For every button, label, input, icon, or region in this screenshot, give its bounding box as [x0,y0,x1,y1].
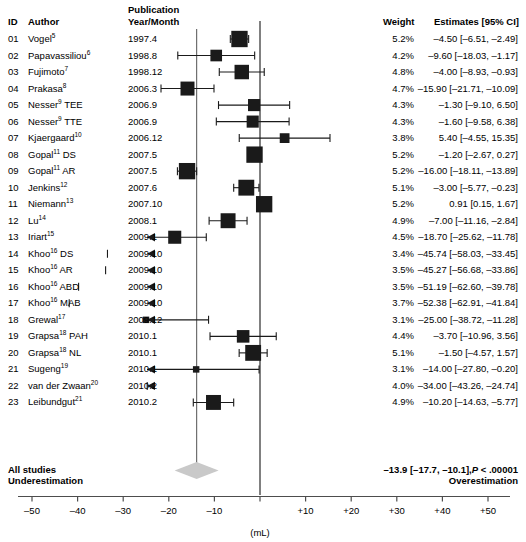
forest-row-19 [210,330,276,343]
row-year: 2009.10 [128,281,162,292]
row-estimate: –18.70 [–25.62, –11.78] [340,231,518,242]
row-id: 15 [8,264,19,275]
row-year: 2007.5 [128,149,157,160]
row-id: 05 [8,99,19,110]
row-author: Grewal17 [28,314,65,325]
effect-marker [221,213,236,228]
row-estimate: –3.00 [–5.77, –0.23] [340,182,518,193]
effect-marker [235,65,249,79]
row-estimate: –25.00 [–38.72, –11.28] [340,314,518,325]
forest-row-06 [216,116,289,128]
row-id: 06 [8,116,19,127]
row-year: 2009.12 [128,314,162,325]
row-id: 01 [8,33,19,44]
axis-tick-label: –40 [53,505,103,516]
row-estimate: –7.00 [–11.16, –2.84] [340,215,518,226]
row-estimate: –34.00 [–43.26, –24.74] [340,380,518,391]
header-weight: Weight [383,16,415,27]
row-author: Niemann13 [28,198,73,209]
row-estimate: –16.00 [–18.11, –13.89] [340,165,518,176]
effect-marker [181,82,195,96]
row-estimate: 0.91 [0.15, 1.67] [340,198,518,209]
row-author: Grapsa18 PAH [28,330,88,341]
row-author: Papavassiliou6 [28,50,90,61]
row-year: 2009.10 [128,297,162,308]
effect-marker [179,163,195,179]
row-id: 08 [8,149,19,160]
row-author: Nesser9 TTE [28,116,82,127]
axis-unit-label: (mL) [235,527,285,538]
row-estimate: –45.74 [–58.03, –33.45] [340,248,518,259]
row-author: Prakasa8 [28,83,66,94]
row-author: Kjaergaard10 [28,132,82,143]
row-year: 2010.1 [128,363,157,374]
summary-label-line2: Underestimation [8,475,83,487]
row-year: 2010.1 [128,330,157,341]
forest-row-01 [230,31,248,47]
axis-tick-label: +40 [417,505,467,516]
row-estimate: –10.20 [–14.63, –5.77] [340,396,518,407]
row-author: Khoo16 DS [28,248,73,259]
row-estimate: –52.38 [–62.91, –41.84] [340,297,518,308]
axis-tick-label: –20 [144,505,194,516]
row-id: 23 [8,396,19,407]
effect-marker [280,133,290,143]
row-year: 2010.2 [128,380,157,391]
row-estimate: 5.40 [–4.55, 15.35] [340,132,518,143]
row-estimate: –3.70 [–10.96, 3.56] [340,330,518,341]
row-year: 2009.10 [128,264,162,275]
forest-row-10 [234,180,259,196]
axis-tick-label: –50 [7,505,57,516]
row-id: 04 [8,83,19,94]
row-id: 07 [8,132,19,143]
axis-tick-label: +10 [281,505,331,516]
forest-row-07 [239,133,330,143]
effect-marker [168,231,181,244]
row-estimate: –9.60 [–18.03, –1.17] [340,50,518,61]
row-id: 21 [8,363,19,374]
forest-row-20 [239,345,267,361]
forest-row-08 [246,146,262,162]
effect-marker [238,180,254,196]
effect-marker [231,31,247,47]
row-author: Nesser9 TEE [28,99,83,110]
effect-marker [248,99,260,111]
effect-marker [246,146,262,162]
row-year: 2007.6 [128,182,157,193]
summary-pooled-estimate: –13.9 [–17.7, –10.1],P < .00001 [320,464,518,476]
axis-tick-label: +50 [463,505,513,516]
summary-label-line1: All studies [8,464,56,476]
row-year: 2010.1 [128,347,157,358]
row-year: 2006.3 [128,83,157,94]
pooled-diamond [175,462,219,479]
row-estimate: –1.50 [–4.57, 1.57] [340,347,518,358]
row-author: Sugeng19 [28,363,68,374]
effect-marker [245,345,261,361]
forest-row-11 [256,196,272,212]
row-author: Leibundgut21 [28,396,82,407]
row-author: Vogel5 [28,33,55,44]
header-publication-line2: Year/Month [128,16,179,27]
row-estimate: –15.90 [–21.71, –10.09] [340,83,518,94]
row-author: Grapsa18 NL [28,347,81,358]
row-estimate: –4.00 [–8.93, –0.93] [340,66,518,77]
forest-row-09 [177,163,196,179]
row-year: 1997.4 [128,33,157,44]
row-author: Fujimoto7 [28,66,68,77]
row-id: 09 [8,165,19,176]
axis-tick-label: –30 [98,505,148,516]
row-id: 20 [8,347,19,358]
row-id: 03 [8,66,19,77]
row-year: 1998.12 [128,66,162,77]
axis-tick-label: +20 [326,505,376,516]
forest-row-23 [193,395,233,410]
row-year: 2007.10 [128,198,162,209]
row-author: Lu14 [28,215,46,226]
row-estimate: –4.50 [–6.51, –2.49] [340,33,518,44]
row-estimate: –45.27 [–56.68, –33.86] [340,264,518,275]
row-year: 2010.2 [128,396,157,407]
row-estimate: –1.20 [–2.67, 0.27] [340,149,518,160]
forest-row-04 [161,82,214,96]
header-id: ID [8,16,18,27]
row-estimate: –51.19 [–62.60, –39.78] [340,281,518,292]
